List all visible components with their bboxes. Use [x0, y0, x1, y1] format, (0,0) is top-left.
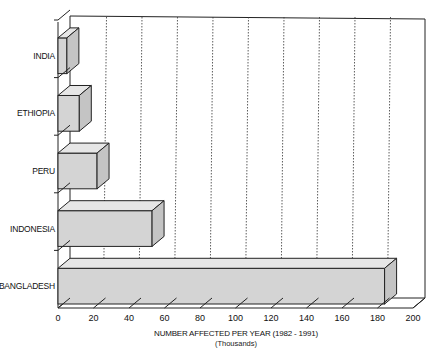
x-tick-label: 60: [159, 313, 169, 323]
category-label-india: INDIA: [33, 51, 55, 61]
grid-lines: [104, 17, 391, 298]
bar-peru: [58, 143, 109, 189]
bar-bangladesh: [58, 258, 397, 304]
bar-india: [58, 28, 79, 74]
category-label-bangladesh: BANGLADESH: [0, 281, 55, 291]
x-tick-label: 120: [263, 313, 278, 323]
category-label-peru: PERU: [32, 166, 55, 176]
bar-indonesia: [58, 201, 164, 247]
category-label-ethiopia: ETHIOPIA: [17, 108, 56, 118]
bar-ethiopia: [58, 85, 91, 131]
x-tick-label: 20: [88, 313, 98, 323]
x-tick-label: 200: [405, 313, 420, 323]
x-axis-label: NUMBER AFFECTED PER YEAR (1982 - 1991): [154, 329, 318, 338]
x-tick-label: 180: [370, 313, 385, 323]
category-label-indonesia: INDONESIA: [10, 224, 55, 234]
bars: [58, 28, 397, 304]
x-tick-label: 140: [299, 313, 314, 323]
x-tick-label: 100: [228, 313, 243, 323]
x-tick-label: 40: [124, 313, 134, 323]
x-tick-label: 80: [195, 313, 205, 323]
x-axis-unit-label: (Thousands): [215, 339, 258, 348]
bar-chart-3d: INDIAETHIOPIAPERUINDONESIABANGLADESH 020…: [0, 0, 439, 352]
x-tick-label: 0: [55, 313, 60, 323]
x-tick-label: 160: [334, 313, 349, 323]
